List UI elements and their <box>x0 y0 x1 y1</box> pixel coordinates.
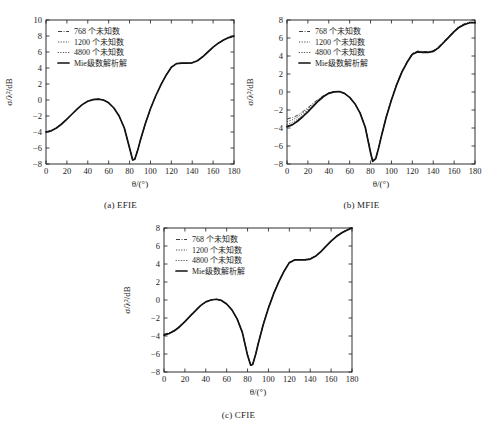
x-axis-title: θ/(°) <box>250 387 266 397</box>
y-tick-label: 8 <box>279 15 283 25</box>
x-tick-label: 120 <box>283 374 296 384</box>
y-tick-label: −8 <box>151 367 160 377</box>
y-tick-label: −4 <box>151 331 161 341</box>
y-tick-label: −2 <box>151 313 160 323</box>
x-tick-label: 40 <box>325 166 334 176</box>
y-tick-label: −8 <box>274 159 283 169</box>
y-tick-label: −2 <box>274 105 283 115</box>
legend-label: 1200 个未知数 <box>74 37 124 47</box>
y-tick-label: 2 <box>38 79 42 89</box>
y-tick-label: 4 <box>156 259 161 269</box>
x-tick-label: 120 <box>165 166 178 176</box>
x-tick-label: 160 <box>325 374 338 384</box>
legend-label: 768 个未知数 <box>192 234 238 244</box>
x-tick-label: 0 <box>162 374 166 384</box>
y-tick-label: 8 <box>156 223 160 233</box>
x-tick-label: 20 <box>181 374 190 384</box>
x-tick-label: 180 <box>228 166 241 176</box>
y-tick-label: 4 <box>38 63 43 73</box>
x-tick-label: 180 <box>346 374 359 384</box>
y-tick-label: 0 <box>279 87 283 97</box>
caption-cfie: (c) CFIE <box>118 410 359 420</box>
legend-label: 4800 个未知数 <box>315 47 365 57</box>
x-tick-label: 20 <box>63 166 72 176</box>
panel-cfie: 020406080100120140160180−8−6−4−202468θ/(… <box>118 214 359 422</box>
x-tick-label: 80 <box>366 166 375 176</box>
x-tick-label: 140 <box>427 166 440 176</box>
legend-label: 1200 个未知数 <box>192 245 242 255</box>
caption-mfie: (b) MFIE <box>241 200 482 210</box>
plot-efie: 020406080100120140160180−8−6−4−20246810θ… <box>0 6 241 198</box>
x-tick-label: 100 <box>262 374 275 384</box>
y-tick-label: 0 <box>156 295 160 305</box>
legend-label: 4800 个未知数 <box>74 47 124 57</box>
x-tick-label: 0 <box>285 166 289 176</box>
y-tick-label: −4 <box>274 123 284 133</box>
y-tick-label: 0 <box>38 95 42 105</box>
x-tick-label: 60 <box>104 166 113 176</box>
caption-efie: (a) EFIE <box>0 200 241 210</box>
panel-mfie: 020406080100120140160180−8−6−4−202468θ/(… <box>241 6 482 211</box>
y-tick-label: 6 <box>156 241 160 251</box>
x-tick-label: 100 <box>144 166 157 176</box>
x-tick-label: 0 <box>44 166 48 176</box>
y-tick-label: 4 <box>279 51 284 61</box>
x-tick-label: 160 <box>207 166 220 176</box>
legend-label: 768 个未知数 <box>74 26 120 36</box>
x-tick-label: 180 <box>469 166 482 176</box>
plot-cfie: 020406080100120140160180−8−6−4−202468θ/(… <box>118 214 359 406</box>
legend-label: Mie级数解析解 <box>192 266 245 276</box>
x-tick-label: 140 <box>304 374 317 384</box>
x-tick-label: 100 <box>385 166 398 176</box>
x-tick-label: 140 <box>186 166 199 176</box>
x-axis-title: θ/(°) <box>132 179 148 189</box>
y-tick-label: 6 <box>279 33 283 43</box>
x-axis-title: θ/(°) <box>373 179 389 189</box>
panel-efie: 020406080100120140160180−8−6−4−20246810θ… <box>0 6 241 211</box>
x-tick-label: 60 <box>222 374 231 384</box>
legend-label: 1200 个未知数 <box>315 37 365 47</box>
x-tick-label: 20 <box>304 166 313 176</box>
figure-rcs-comparison: 020406080100120140160180−8−6−4−20246810θ… <box>0 0 482 425</box>
x-tick-label: 40 <box>84 166 93 176</box>
y-tick-label: −6 <box>274 141 283 151</box>
x-tick-label: 60 <box>345 166 354 176</box>
y-tick-label: 10 <box>34 15 43 25</box>
plot-mfie: 020406080100120140160180−8−6−4−202468θ/(… <box>241 6 482 198</box>
y-tick-label: 8 <box>38 31 42 41</box>
x-tick-label: 80 <box>125 166 134 176</box>
y-tick-label: 6 <box>38 47 42 57</box>
legend-label: Mie级数解析解 <box>74 58 127 68</box>
y-tick-label: −4 <box>33 127 43 137</box>
x-tick-label: 120 <box>406 166 419 176</box>
x-tick-label: 80 <box>243 374 252 384</box>
y-axis-title: σ/λ²/dB <box>122 286 132 313</box>
x-tick-label: 40 <box>202 374 211 384</box>
y-tick-label: −8 <box>33 159 42 169</box>
y-tick-label: −6 <box>151 349 160 359</box>
y-axis-title: σ/λ²/dB <box>245 78 255 105</box>
y-axis-title: σ/λ²/dB <box>4 78 14 105</box>
y-tick-label: 2 <box>279 69 283 79</box>
legend-label: 4800 个未知数 <box>192 255 242 265</box>
legend-label: Mie级数解析解 <box>315 58 368 68</box>
y-tick-label: −6 <box>33 143 42 153</box>
x-tick-label: 160 <box>448 166 461 176</box>
legend-label: 768 个未知数 <box>315 26 361 36</box>
y-tick-label: 2 <box>156 277 160 287</box>
y-tick-label: −2 <box>33 111 42 121</box>
